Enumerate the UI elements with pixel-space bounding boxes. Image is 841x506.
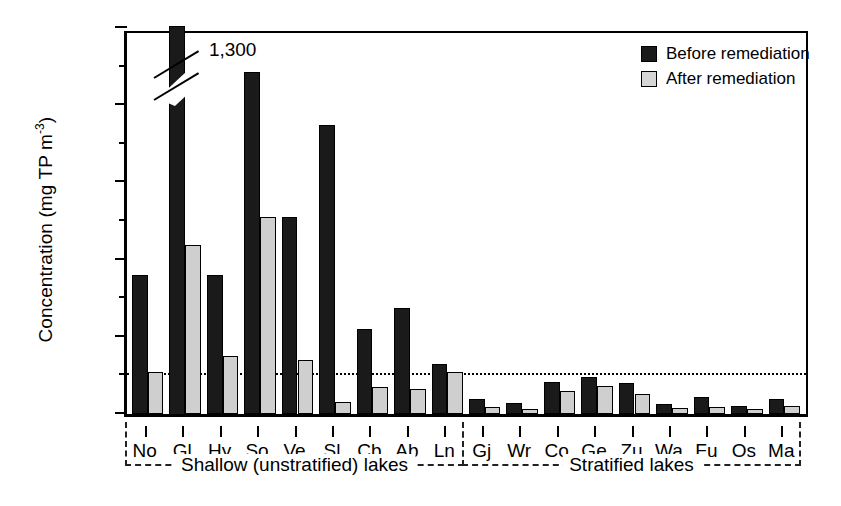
y-axis-title: Concentration (mg TP m-3)	[33, 30, 56, 430]
bar-after-Hy	[223, 356, 239, 414]
bar-before-Wa	[656, 404, 672, 414]
bar-before-Ln	[432, 364, 448, 414]
y-tick-200	[115, 335, 127, 337]
bar-before-Ma	[769, 399, 785, 414]
bar-after-Zu	[635, 394, 651, 414]
annotation-out-of-range-value: 1,300	[209, 39, 257, 61]
bar-before-Cb	[357, 329, 373, 414]
y-tick-800	[115, 103, 127, 105]
bar-after-Ge	[597, 386, 613, 414]
bar-before-Ve	[282, 217, 298, 414]
y-minor-tick-100	[119, 373, 127, 375]
bar-after-Wr	[522, 409, 538, 414]
bar-after-Ve	[298, 360, 314, 414]
bar-before-Os	[731, 406, 747, 414]
bar-after-No	[148, 372, 164, 414]
legend-swatch-after-icon	[641, 71, 657, 87]
y-minor-tick-300	[119, 296, 127, 298]
bar-after-Gl	[185, 245, 201, 414]
group-bracket-stratified: Stratified lakes	[462, 422, 801, 466]
y-minor-tick-500	[119, 219, 127, 221]
legend-label-before: Before remediation	[666, 44, 810, 64]
y-minor-tick-900	[119, 65, 127, 67]
y-axis-title-text: Concentration (mg TP m	[35, 134, 56, 342]
bar-before-No	[132, 275, 148, 414]
bar-after-Co	[560, 391, 576, 414]
legend-label-after: After remediation	[666, 69, 795, 89]
bar-after-Ab	[410, 389, 426, 414]
bar-before-Zu	[619, 383, 635, 414]
bar-before-Gj	[469, 399, 485, 414]
legend: Before remediation After remediation	[641, 44, 810, 94]
legend-swatch-before-icon	[641, 46, 657, 62]
group-label-stratified: Stratified lakes	[562, 454, 701, 476]
y-minor-tick-700	[119, 142, 127, 144]
bar-after-So	[260, 217, 276, 414]
bar-after-Ln	[447, 372, 463, 414]
bar-after-Fu	[709, 407, 725, 414]
bar-after-Ma	[784, 406, 800, 414]
bar-before-Ge	[581, 377, 597, 414]
bar-after-Os	[747, 409, 763, 414]
y-axis-title-suffix: )	[35, 117, 56, 123]
bar-before-Fu	[694, 397, 710, 414]
bar-before-Ab	[394, 308, 410, 414]
bar-before-Sl	[319, 125, 335, 415]
legend-item-after: After remediation	[641, 69, 810, 89]
chart-figure: Concentration (mg TP m-3) 02004006008001…	[0, 0, 841, 506]
group-label-shallow: Shallow (unstratified) lakes	[174, 454, 415, 476]
group-bracket-shallow: Shallow (unstratified) lakes	[125, 422, 464, 466]
y-axis-title-exponent: -3	[33, 123, 47, 134]
bar-before-So	[244, 72, 260, 414]
y-tick-0	[115, 412, 127, 414]
bar-after-Sl	[335, 402, 351, 414]
legend-item-before: Before remediation	[641, 44, 810, 64]
y-tick-400	[115, 258, 127, 260]
bar-before-Gl	[169, 26, 185, 414]
y-tick-1000	[115, 26, 127, 28]
bar-before-Wr	[506, 403, 522, 414]
bar-before-Hy	[207, 275, 223, 414]
bar-after-Wa	[672, 408, 688, 414]
bar-after-Cb	[372, 387, 388, 414]
y-tick-600	[115, 180, 127, 182]
bar-before-Co	[544, 382, 560, 414]
bar-after-Gj	[485, 407, 501, 414]
